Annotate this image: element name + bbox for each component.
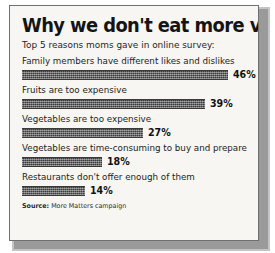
bar-row-label: Restaurants don't offer enough of them xyxy=(22,170,237,183)
bar-row: Vegetables are too expensive 27% xyxy=(22,112,248,139)
page-title: Why we don't eat more veggies xyxy=(22,14,234,36)
bar-fill xyxy=(22,157,102,167)
chart-subtitle: Top 5 reasons moms gave in online survey… xyxy=(22,38,239,51)
bar-fill xyxy=(22,128,143,138)
bar-line: 39% xyxy=(22,97,248,110)
chart-panel: Why we don't eat more veggies Top 5 reas… xyxy=(9,5,259,241)
source-note-text: More Matters campaign xyxy=(51,202,126,210)
bar-value-label: 14% xyxy=(90,186,113,196)
bar-row-label: Vegetables are time-consuming to buy and… xyxy=(22,141,237,154)
bar-fill xyxy=(22,99,205,109)
bar-row: Family members have different likes and … xyxy=(22,54,248,81)
newspaper-chart-clipping: Why we don't eat more veggies Top 5 reas… xyxy=(0,0,275,253)
bar-row: Vegetables are time-consuming to buy and… xyxy=(22,141,248,168)
bar-line: 27% xyxy=(22,126,248,139)
bar-value-label: 39% xyxy=(210,99,233,109)
bar-fill xyxy=(22,70,228,80)
source-note: Source: More Matters campaign xyxy=(22,202,239,211)
bar-fill xyxy=(22,186,85,196)
bar-value-label: 18% xyxy=(107,157,130,167)
bar-row-label: Fruits are too expensive xyxy=(22,83,237,96)
source-note-label: Source: xyxy=(22,202,49,210)
bar-row-label: Vegetables are too expensive xyxy=(22,112,237,125)
bar-value-label: 46% xyxy=(233,70,256,80)
bar-line: 18% xyxy=(22,155,248,168)
bar-row: Restaurants don't offer enough of them 1… xyxy=(22,170,248,197)
bar-line: 14% xyxy=(22,184,248,197)
bar-value-label: 27% xyxy=(148,128,171,138)
bar-row-label: Family members have different likes and … xyxy=(22,54,237,67)
bar-line: 46% xyxy=(22,68,248,81)
bar-row: Fruits are too expensive 39% xyxy=(22,83,248,110)
bar-rows: Family members have different likes and … xyxy=(22,54,248,197)
chart-panel-inner: Why we don't eat more veggies Top 5 reas… xyxy=(10,6,258,240)
